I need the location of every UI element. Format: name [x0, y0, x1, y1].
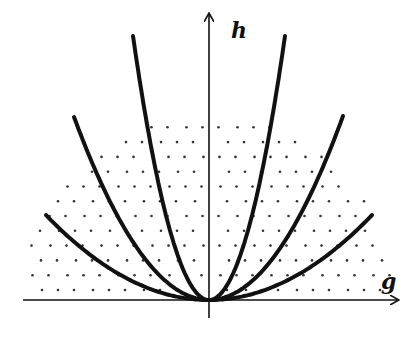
dot [167, 244, 170, 247]
dot [66, 274, 69, 277]
dot [168, 185, 171, 188]
dot [184, 185, 187, 188]
dot [312, 289, 315, 292]
dot [149, 274, 152, 277]
dot [133, 185, 136, 188]
dot [251, 185, 254, 188]
dot [218, 244, 221, 247]
dot [116, 244, 119, 247]
dot [193, 170, 196, 173]
dot [330, 259, 333, 262]
dot [236, 215, 239, 218]
dot [116, 156, 119, 159]
dot [151, 244, 154, 247]
dot [226, 200, 229, 203]
dot [278, 141, 281, 144]
dot [219, 274, 222, 277]
dot [30, 244, 33, 247]
dot [82, 185, 85, 188]
dot [261, 200, 264, 203]
dot [347, 289, 350, 292]
dot [202, 156, 205, 159]
dot [296, 200, 299, 203]
dot [371, 244, 374, 247]
dot [294, 230, 297, 233]
middle-parabola-right [209, 116, 343, 300]
dot [100, 156, 103, 159]
dot [286, 274, 289, 277]
dot [269, 244, 272, 247]
dot [372, 274, 375, 277]
dot [141, 141, 144, 144]
dot [319, 215, 322, 218]
dot [243, 230, 246, 233]
dot [150, 215, 153, 218]
dot [355, 244, 358, 247]
dot [270, 274, 273, 277]
dot [302, 185, 305, 188]
dot [160, 141, 163, 144]
dot [253, 156, 256, 159]
dot [90, 230, 93, 233]
outer-parabola-right [209, 215, 372, 300]
dot [328, 289, 331, 292]
dot [176, 141, 179, 144]
dot [185, 215, 188, 218]
dot [39, 230, 42, 233]
dot [92, 289, 95, 292]
dot [64, 215, 67, 218]
dot [160, 230, 163, 233]
dot [168, 274, 171, 277]
dot [83, 215, 86, 218]
dot [66, 185, 69, 188]
dot [304, 156, 307, 159]
dot [166, 126, 169, 129]
dot [295, 259, 298, 262]
dot [269, 156, 272, 159]
dot [286, 185, 289, 188]
dot [244, 259, 247, 262]
dot [279, 170, 282, 173]
dot [143, 200, 146, 203]
dot [134, 215, 137, 218]
dot [330, 170, 333, 173]
dot [234, 244, 237, 247]
dot [73, 200, 76, 203]
dot [364, 230, 367, 233]
dot [219, 185, 222, 188]
dot [91, 259, 94, 262]
dot [194, 200, 197, 203]
dot [311, 259, 314, 262]
dot [75, 259, 78, 262]
dot [201, 126, 204, 129]
dot [117, 185, 120, 188]
dot [235, 185, 238, 188]
dot [278, 230, 281, 233]
dot [313, 230, 316, 233]
dot [328, 200, 331, 203]
h-axis-label: h [231, 17, 247, 43]
dot [243, 141, 246, 144]
dot [126, 170, 129, 173]
dot [277, 200, 280, 203]
dot [31, 274, 34, 277]
dot [99, 215, 102, 218]
dot [251, 274, 254, 277]
dot [183, 244, 186, 247]
dot [109, 230, 112, 233]
dot [262, 230, 265, 233]
dot [320, 156, 323, 159]
dot [185, 126, 188, 129]
dot [149, 185, 152, 188]
dot [125, 141, 128, 144]
dot [287, 215, 290, 218]
dot [107, 259, 110, 262]
dot [41, 289, 44, 292]
dot [363, 289, 366, 292]
dot [347, 200, 350, 203]
dot [285, 156, 288, 159]
dot [100, 244, 103, 247]
dot [337, 274, 340, 277]
dot [201, 215, 204, 218]
dot [74, 230, 77, 233]
